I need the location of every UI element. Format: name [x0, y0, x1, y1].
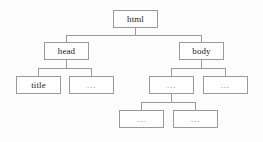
edge-body-child2-stem: [225, 68, 226, 76]
node-body-child-2-label: …: [220, 81, 230, 90]
edge-leaf-bus: [141, 102, 196, 103]
edge-head-ellipsis-stem: [91, 68, 92, 76]
node-html: html: [113, 10, 158, 28]
edge-head-stem: [66, 35, 67, 42]
edge-body-stem: [201, 35, 202, 42]
node-head-ellipsis: …: [69, 76, 114, 94]
node-head-ellipsis-label: …: [86, 81, 96, 90]
edge-body-down-stem: [201, 60, 202, 68]
dom-tree-diagram: html head body title … … … … …: [0, 0, 263, 142]
edge-title-stem: [38, 68, 39, 76]
edge-head-down-stem: [66, 60, 67, 68]
edge-body-bus: [171, 68, 226, 69]
node-leaf-2: …: [173, 110, 218, 128]
node-body-child-1-label: …: [166, 81, 176, 90]
node-body-child-1: …: [149, 76, 194, 94]
node-head-label: head: [58, 47, 75, 56]
node-title: title: [16, 76, 61, 94]
edge-html-stem: [135, 28, 136, 35]
edge-leafparent-down-stem: [171, 94, 172, 102]
node-leaf-1-label: …: [136, 115, 146, 124]
node-html-label: html: [127, 15, 144, 24]
node-title-label: title: [31, 81, 46, 90]
node-body-label: body: [192, 47, 210, 56]
node-head: head: [44, 42, 89, 60]
node-leaf-1: …: [119, 110, 164, 128]
edge-body-child1-stem: [171, 68, 172, 76]
node-leaf-2-label: …: [190, 115, 200, 124]
node-body: body: [179, 42, 224, 60]
edge-head-bus: [38, 68, 92, 69]
edge-leaf1-stem: [141, 102, 142, 110]
edge-html-bus: [66, 35, 202, 36]
edge-leaf2-stem: [195, 102, 196, 110]
node-body-child-2: …: [203, 76, 248, 94]
